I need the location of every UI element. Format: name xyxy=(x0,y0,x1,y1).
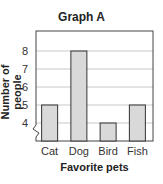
y-tick-label: 4 xyxy=(22,117,28,129)
bar-bird xyxy=(100,123,116,141)
x-tick-label: Bird xyxy=(98,145,118,157)
x-tick-label: Fish xyxy=(127,145,148,157)
y-tick-label: 8 xyxy=(22,45,28,57)
x-tick-label: Dog xyxy=(69,145,89,157)
y-tick-label: 6 xyxy=(22,81,28,93)
y-tick-label: 5 xyxy=(22,99,28,111)
bar-chart: 45678CatDogBirdFish xyxy=(0,0,163,184)
bar-dog xyxy=(71,51,87,141)
bar-cat xyxy=(42,105,58,141)
x-tick-label: Cat xyxy=(41,145,58,157)
y-tick-label: 7 xyxy=(22,63,28,75)
bar-fish xyxy=(129,105,145,141)
